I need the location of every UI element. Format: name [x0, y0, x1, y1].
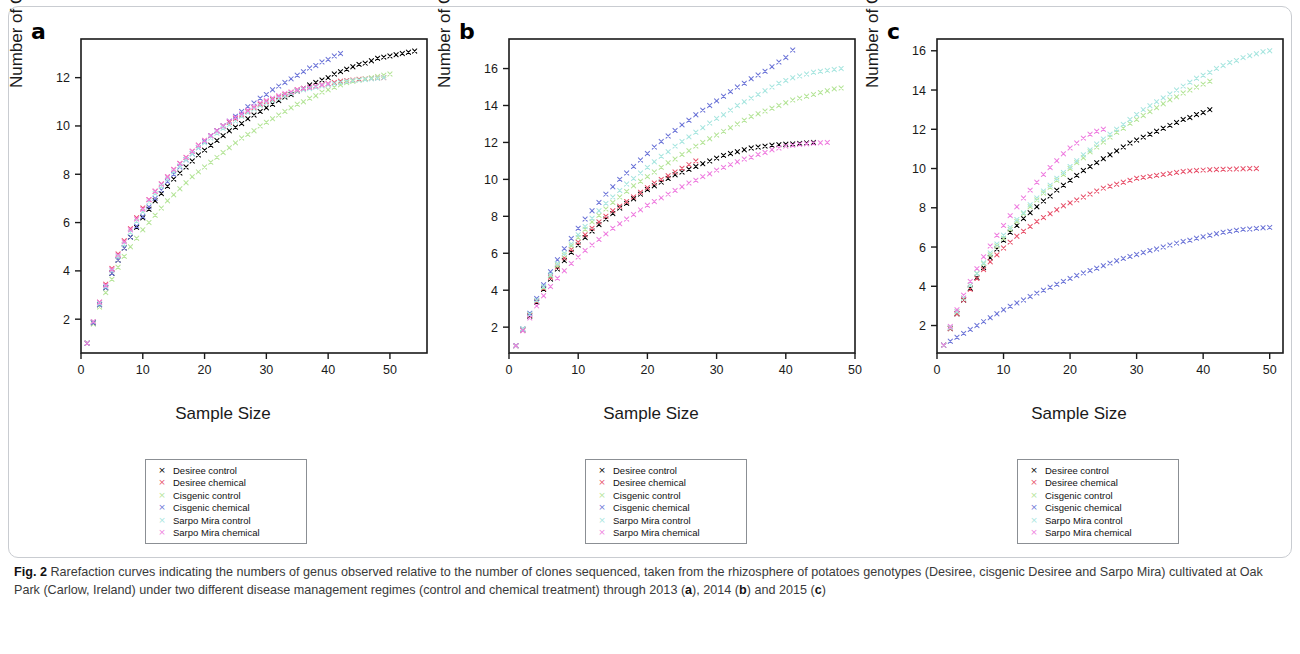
panel-b-plot: Number of Genus 01020304050246810121416 … — [437, 21, 865, 431]
svg-text:8: 8 — [491, 210, 498, 224]
legend-item-label: Desiree control — [1045, 465, 1109, 476]
svg-text:10: 10 — [56, 119, 70, 133]
caption-mid-2: ) and 2015 ( — [747, 583, 815, 597]
svg-text:40: 40 — [779, 363, 793, 377]
figure-card: a Number of Genus 0102030405024681012 Sa… — [8, 6, 1292, 558]
legend-marker-icon: × — [1023, 503, 1045, 512]
legend-item: ×Desiree control — [591, 464, 741, 477]
legend-marker-icon: × — [151, 503, 173, 512]
svg-text:10: 10 — [571, 363, 585, 377]
legend-item: ×Sarpo Mira chemical — [151, 527, 301, 540]
panel-c: c Number of Genus 0102030405024681012141… — [865, 7, 1293, 559]
svg-text:14: 14 — [912, 84, 926, 98]
svg-text:20: 20 — [198, 363, 212, 377]
legend-item: ×Cisgenic chemical — [1023, 502, 1173, 515]
svg-text:12: 12 — [56, 71, 70, 85]
legend-marker-icon: × — [591, 503, 613, 512]
svg-text:50: 50 — [848, 363, 862, 377]
svg-text:2: 2 — [491, 321, 498, 335]
legend-item-label: Cisgenic control — [613, 490, 681, 501]
svg-text:8: 8 — [63, 168, 70, 182]
panel-a-chart-svg: 0102030405024681012 — [9, 21, 437, 401]
svg-text:30: 30 — [710, 363, 724, 377]
legend-item-label: Sarpo Mira control — [613, 515, 691, 526]
svg-text:30: 30 — [259, 363, 273, 377]
legend-item: ×Desiree chemical — [1023, 477, 1173, 490]
panel-a-plot: Number of Genus 0102030405024681012 Samp… — [9, 21, 437, 431]
legend-item: ×Desiree chemical — [151, 477, 301, 490]
legend-marker-icon: × — [1023, 516, 1045, 525]
legend-marker-icon: × — [1023, 491, 1045, 500]
svg-text:4: 4 — [63, 264, 70, 278]
legend-item: ×Sarpo Mira control — [151, 514, 301, 527]
legend-item: ×Cisgenic chemical — [151, 502, 301, 515]
svg-text:6: 6 — [63, 216, 70, 230]
svg-text:4: 4 — [919, 280, 926, 294]
legend-marker-icon: × — [591, 478, 613, 487]
legend-item-label: Sarpo Mira chemical — [1045, 527, 1132, 538]
svg-text:10: 10 — [912, 162, 926, 176]
panel-b-chart-svg: 01020304050246810121416 — [437, 21, 865, 401]
legend-item-label: Desiree chemical — [613, 477, 686, 488]
legend-marker-icon: × — [591, 466, 613, 475]
panel-b-legend: ×Desiree control×Desiree chemical×Cisgen… — [585, 459, 747, 544]
legend-item: ×Desiree control — [151, 464, 301, 477]
svg-text:16: 16 — [484, 62, 498, 76]
legend-item: ×Sarpo Mira control — [1023, 514, 1173, 527]
svg-text:10: 10 — [484, 173, 498, 187]
caption-mid-1: ), 2014 ( — [692, 583, 739, 597]
legend-marker-icon: × — [151, 478, 173, 487]
panel-c-plot: Number of Genus 01020304050246810121416 … — [865, 21, 1293, 431]
svg-text:12: 12 — [484, 136, 498, 150]
svg-text:30: 30 — [1130, 363, 1144, 377]
legend-item-label: Cisgenic chemical — [613, 502, 690, 513]
panel-b-x-axis-label: Sample Size — [437, 404, 865, 424]
caption-ref-b: b — [739, 583, 747, 597]
caption-end: ) — [822, 583, 826, 597]
svg-text:4: 4 — [491, 284, 498, 298]
legend-marker-icon: × — [591, 516, 613, 525]
legend-marker-icon: × — [151, 516, 173, 525]
legend-item-label: Cisgenic control — [173, 490, 241, 501]
legend-item-label: Sarpo Mira chemical — [173, 527, 260, 538]
legend-marker-icon: × — [151, 528, 173, 537]
legend-item-label: Cisgenic control — [1045, 490, 1113, 501]
legend-item: ×Cisgenic control — [591, 489, 741, 502]
svg-text:2: 2 — [919, 319, 926, 333]
svg-text:40: 40 — [1196, 363, 1210, 377]
svg-text:0: 0 — [506, 363, 513, 377]
legend-item-label: Cisgenic chemical — [1045, 502, 1122, 513]
svg-text:2: 2 — [63, 313, 70, 327]
svg-text:0: 0 — [934, 363, 941, 377]
legend-item-label: Cisgenic chemical — [173, 502, 250, 513]
legend-marker-icon: × — [151, 466, 173, 475]
panel-a-legend: ×Desiree control×Desiree chemical×Cisgen… — [145, 459, 307, 544]
legend-item-label: Sarpo Mira control — [1045, 515, 1123, 526]
legend-item-label: Desiree control — [613, 465, 677, 476]
panel-c-x-axis-label: Sample Size — [865, 404, 1293, 424]
panel-a-x-axis-label: Sample Size — [9, 404, 437, 424]
legend-item: ×Sarpo Mira chemical — [1023, 527, 1173, 540]
svg-text:6: 6 — [491, 247, 498, 261]
figure-caption: Fig. 2 Rarefaction curves indicating the… — [14, 564, 1286, 599]
panel-b: b Number of Genus 0102030405024681012141… — [437, 7, 865, 559]
legend-item-label: Desiree control — [173, 465, 237, 476]
svg-text:16: 16 — [912, 44, 926, 58]
legend-item: ×Desiree control — [1023, 464, 1173, 477]
caption-body: Rarefaction curves indicating the number… — [14, 565, 1263, 597]
svg-text:6: 6 — [919, 241, 926, 255]
svg-text:40: 40 — [321, 363, 335, 377]
legend-item-label: Sarpo Mira control — [173, 515, 251, 526]
legend-marker-icon: × — [1023, 466, 1045, 475]
caption-ref-c: c — [815, 583, 822, 597]
svg-text:12: 12 — [912, 123, 926, 137]
legend-item: ×Cisgenic control — [1023, 489, 1173, 502]
legend-item: ×Sarpo Mira chemical — [591, 527, 741, 540]
panel-c-chart-svg: 01020304050246810121416 — [865, 21, 1293, 401]
legend-item-label: Sarpo Mira chemical — [613, 527, 700, 538]
svg-text:14: 14 — [484, 99, 498, 113]
panel-a: a Number of Genus 0102030405024681012 Sa… — [9, 7, 437, 559]
caption-figure-label: Fig. 2 — [14, 565, 47, 579]
svg-text:50: 50 — [1263, 363, 1277, 377]
svg-text:0: 0 — [78, 363, 85, 377]
